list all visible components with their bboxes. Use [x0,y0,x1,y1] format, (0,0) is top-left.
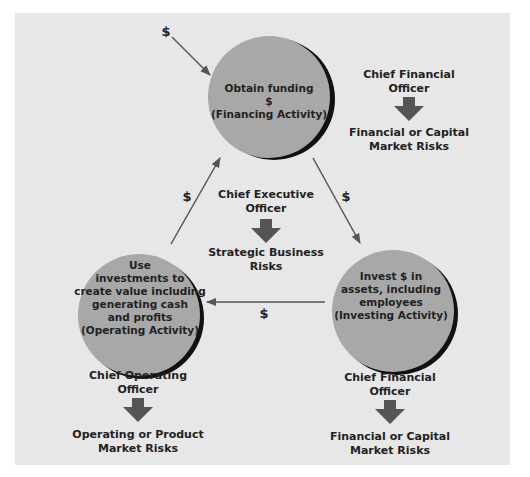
financing-to-investing-label: $ [341,189,350,204]
operating-to-financing-arrow [171,158,220,244]
cfo-bottom-risk: Financial or Capital Market Risks [330,430,450,458]
cfo-bottom-officer: Chief Financial Officer [344,371,436,399]
ceo-risk: Strategic Business Risks [208,246,324,274]
cfo-bottom-down-arrow-icon [374,400,406,424]
coo-officer: Chief Operating Officer [89,369,187,397]
operating-node-label: Use investments to create value includin… [74,259,206,337]
operating-to-financing-label: $ [182,189,191,204]
ceo-down-arrow-icon [250,219,282,243]
investing-node-label: Invest $ in assets, including employees … [334,270,448,322]
coo-risk: Operating or Product Market Risks [72,428,203,456]
investing-to-operating-label: $ [259,306,268,321]
cfo-top-officer: Chief Financial Officer [363,68,455,96]
financing-node-label: Obtain funding $ (Financing Activity) [211,82,327,121]
cfo-top-risk: Financial or Capital Market Risks [349,126,469,154]
ceo-officer: Chief Executive Officer [218,188,314,216]
coo-down-arrow-icon [122,398,154,422]
cfo-top-down-arrow-icon [393,97,425,121]
financing-to-investing-arrow [313,158,360,243]
external-inflow-label: $ [161,24,170,39]
external-inflow-arrow [172,37,210,75]
